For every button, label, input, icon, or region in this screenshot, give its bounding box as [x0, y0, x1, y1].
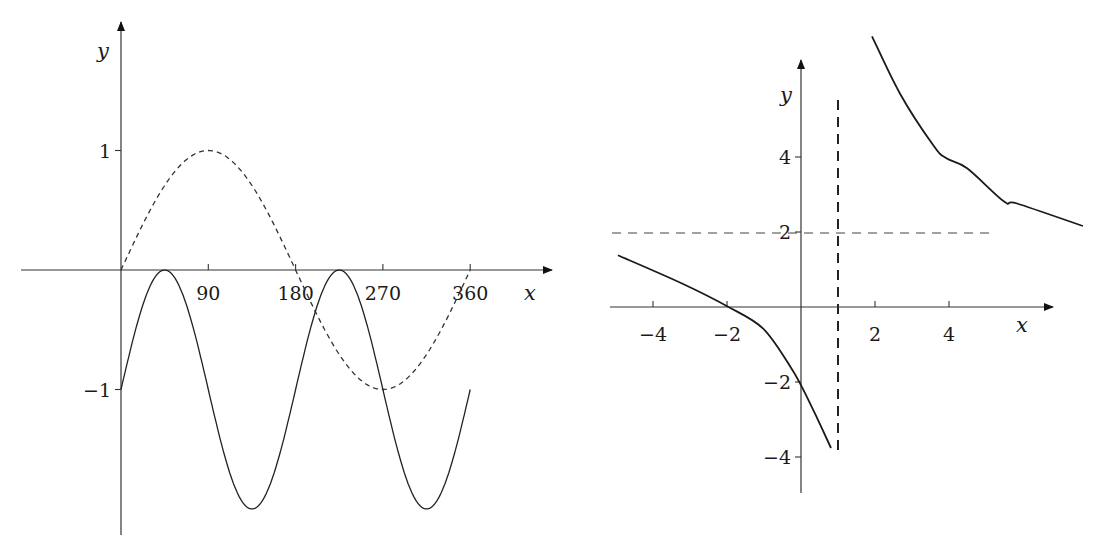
- left-chart: 901802703601−1 y x: [21, 22, 552, 535]
- left-branch-curve: [618, 255, 831, 448]
- x-tick-label: 2: [869, 323, 881, 345]
- right-branch-curve: [872, 36, 1083, 226]
- left-y-axis-label: y: [96, 39, 110, 63]
- y-tick-label: −4: [763, 446, 791, 468]
- sin-2x-minus-1-curve: [121, 270, 470, 509]
- x-tick-label: 90: [196, 282, 220, 304]
- y-tick-label: −1: [83, 379, 111, 401]
- x-tick-label: 270: [365, 282, 401, 304]
- right-chart: −4−22442−2−4 y x: [610, 36, 1083, 493]
- x-tick-label: −4: [639, 323, 667, 345]
- right-x-axis-label: x: [1016, 313, 1028, 337]
- left-x-axis-label: x: [524, 281, 536, 305]
- y-tick-label: 4: [779, 146, 791, 168]
- x-tick-label: −2: [713, 323, 741, 345]
- right-y-axis-label: y: [779, 83, 793, 107]
- x-tick-label: 4: [943, 323, 955, 345]
- y-tick-label: −2: [763, 371, 791, 393]
- x-tick-label: 360: [452, 282, 488, 304]
- figure: 901802703601−1 y x −4−22442−2−4 y x: [0, 0, 1109, 560]
- y-tick-label: 2: [779, 221, 791, 243]
- x-tick-label: 180: [277, 282, 313, 304]
- y-tick-label: 1: [99, 140, 111, 162]
